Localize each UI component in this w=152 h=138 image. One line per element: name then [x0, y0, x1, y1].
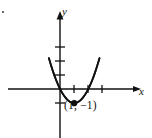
vertex-coordinate-label: (1, −1): [64, 100, 97, 112]
x-axis-label: x: [139, 86, 144, 97]
coordinate-plot: [0, 0, 152, 138]
parabola-figure: x y (1, −1): [0, 0, 152, 138]
y-axis-label: y: [62, 6, 67, 17]
parabola-curve-main: [49, 58, 100, 103]
